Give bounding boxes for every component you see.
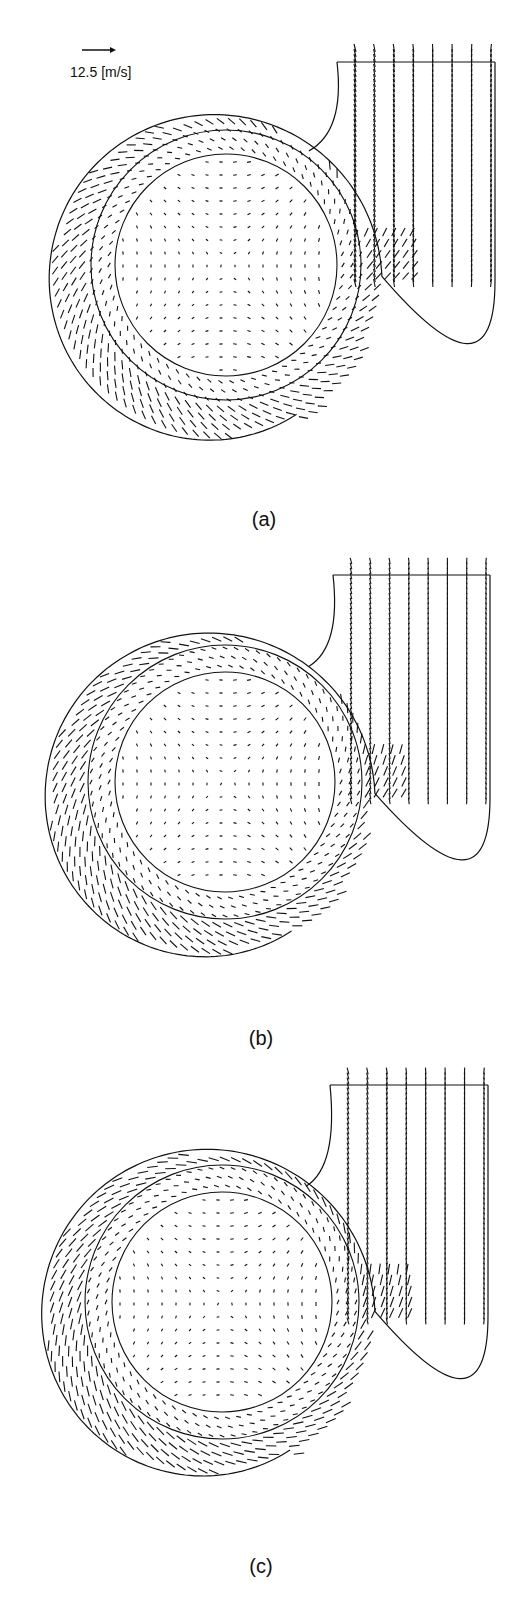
velocity-vector (196, 938, 204, 944)
velocity-vector (245, 1277, 247, 1279)
velocity-vector (484, 1318, 485, 1325)
velocity-vector (170, 941, 177, 948)
velocity-vector (266, 144, 269, 148)
velocity-vector (89, 1371, 91, 1381)
velocity-vector (109, 241, 112, 245)
velocity-vector (344, 813, 347, 817)
velocity-vector (105, 1212, 114, 1218)
velocity-vector (188, 900, 192, 903)
velocity-vector (77, 1244, 84, 1252)
velocity-vector (303, 683, 305, 688)
velocity-vector (178, 809, 180, 811)
velocity-vector (402, 778, 406, 787)
velocity-vector (178, 1154, 189, 1155)
velocity-vector (340, 209, 341, 214)
velocity-vector (277, 913, 287, 914)
velocity-vector (244, 1382, 247, 1383)
velocity-vector (134, 1277, 135, 1280)
velocity-vector (175, 1225, 178, 1227)
velocity-vector (69, 1391, 71, 1401)
velocity-vector (198, 1159, 208, 1161)
velocity-vector (76, 735, 83, 742)
velocity-vector (188, 144, 193, 145)
velocity-vector (79, 251, 85, 258)
velocity-vector (234, 227, 237, 228)
velocity-vector (275, 174, 278, 176)
velocity-vector (233, 732, 236, 733)
velocity-vector (206, 770, 207, 772)
velocity-vector (58, 842, 59, 852)
velocity-vector (115, 366, 116, 375)
velocity-vector (290, 391, 299, 393)
velocity-vector (52, 267, 57, 274)
velocity-vector (248, 796, 250, 798)
velocity-vector (192, 835, 195, 837)
velocity-vector (91, 1356, 92, 1367)
velocity-vector (261, 937, 271, 939)
velocity-vector (52, 1313, 55, 1323)
velocity-vector (146, 382, 149, 391)
velocity-vector (164, 239, 165, 242)
velocity-vector (261, 891, 266, 892)
velocity-vector (263, 770, 264, 773)
velocity-vector (283, 1428, 294, 1429)
velocity-vector (366, 239, 371, 247)
velocity-vector (90, 1201, 99, 1207)
velocity-vector (53, 761, 58, 769)
velocity-vector (343, 1354, 347, 1358)
velocity-vector (270, 399, 279, 402)
velocity-vector (307, 1390, 312, 1392)
velocity-vector (157, 874, 159, 878)
velocity-vector (273, 157, 276, 161)
velocity-vector (136, 213, 138, 216)
velocity-vector (276, 731, 278, 733)
velocity-vector (126, 894, 130, 903)
velocity-vector (336, 747, 337, 752)
velocity-vector (123, 1390, 125, 1395)
panel-c (42, 1068, 488, 1476)
volute-tongue-wall (309, 62, 339, 151)
velocity-vector (108, 1227, 112, 1230)
velocity-vector (192, 213, 194, 215)
velocity-vector (388, 1264, 390, 1275)
velocity-vector (131, 696, 136, 698)
velocity-vector (121, 1210, 126, 1212)
velocity-vector (276, 835, 279, 837)
velocity-vector (206, 719, 209, 720)
velocity-vector (281, 882, 286, 883)
velocity-vector (293, 399, 302, 401)
velocity-vector (212, 922, 221, 927)
velocity-vector (159, 1438, 167, 1445)
velocity-vector (262, 757, 264, 760)
velocity-vector (145, 1201, 150, 1202)
velocity-vector (408, 1297, 412, 1307)
velocity-vector (206, 344, 209, 345)
velocity-vector (111, 1358, 112, 1363)
velocity-vector (273, 1368, 276, 1370)
velocity-vector (326, 337, 331, 339)
velocity-vector (76, 709, 84, 715)
velocity-vector (124, 399, 127, 408)
velocity-vector (84, 1361, 85, 1372)
velocity-vector (304, 303, 306, 306)
velocity-vector (88, 1418, 92, 1428)
velocity-vector (101, 701, 110, 706)
velocity-vector (223, 915, 228, 917)
velocity-vector (118, 713, 122, 716)
velocity-vector (178, 848, 181, 850)
velocity-vector (164, 200, 166, 202)
velocity-vector (261, 874, 265, 875)
velocity-vector (316, 1218, 318, 1223)
velocity-vector (100, 1390, 103, 1400)
velocity-vector (255, 911, 260, 912)
velocity-vector (147, 176, 152, 177)
velocity-vector (192, 239, 194, 241)
velocity-vector (276, 304, 278, 307)
velocity-vector (231, 1343, 234, 1344)
velocity-vector (258, 1394, 262, 1395)
velocity-vector (263, 252, 264, 255)
velocity-vector (367, 273, 373, 280)
velocity-vector (91, 185, 100, 188)
velocity-vector (305, 887, 310, 888)
velocity-vector (248, 213, 251, 214)
